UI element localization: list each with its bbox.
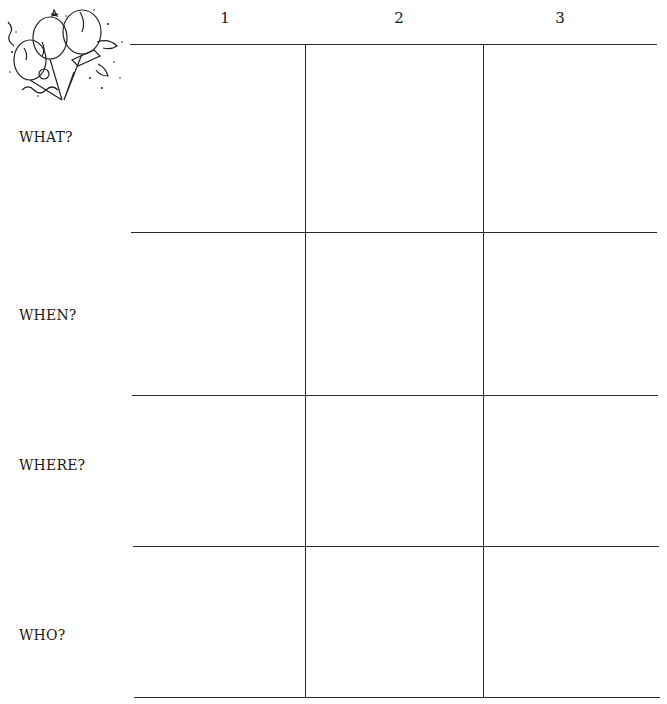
grid-divider-col-2 (483, 45, 484, 697)
grid-line-bottom (134, 697, 660, 698)
cell-when-3[interactable] (485, 234, 657, 394)
grid-divider-col-1 (305, 45, 306, 697)
row-label-when: WHEN? (19, 307, 77, 323)
column-header-1: 1 (205, 9, 245, 27)
party-balloons-icon (2, 2, 130, 104)
grid-line-top (130, 44, 657, 45)
cell-when-2[interactable] (307, 234, 482, 394)
row-label-who: WHO? (19, 627, 65, 643)
cell-who-1[interactable] (132, 548, 304, 696)
grid-line-row-2 (132, 395, 658, 396)
column-header-2: 2 (379, 9, 419, 27)
row-label-what: WHAT? (19, 129, 73, 145)
column-header-3: 3 (540, 9, 580, 27)
cell-what-1[interactable] (132, 46, 304, 231)
row-label-where: WHERE? (19, 457, 85, 473)
cell-who-2[interactable] (307, 548, 482, 696)
cell-what-3[interactable] (485, 46, 657, 231)
cell-where-1[interactable] (132, 397, 304, 545)
cell-where-3[interactable] (485, 397, 657, 545)
cell-who-3[interactable] (485, 548, 657, 696)
cell-where-2[interactable] (307, 397, 482, 545)
grid-line-row-3 (133, 546, 659, 547)
cell-when-1[interactable] (132, 234, 304, 394)
grid-line-row-1 (131, 232, 657, 233)
cell-what-2[interactable] (307, 46, 482, 231)
